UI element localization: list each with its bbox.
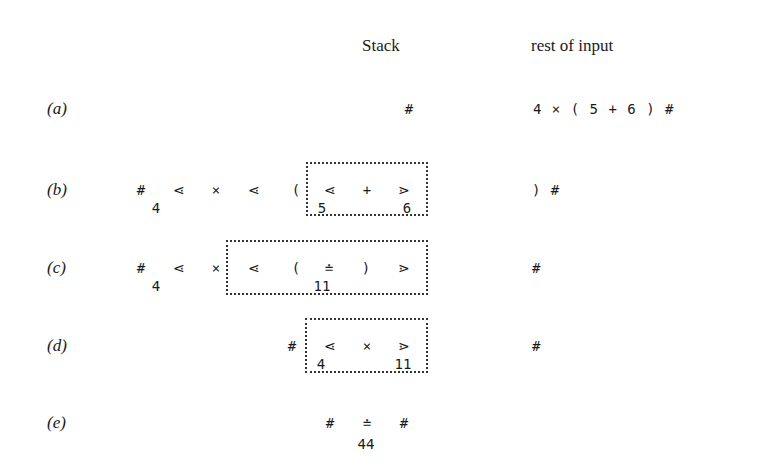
input-remaining: # — [532, 339, 540, 353]
stack-symbol: × — [212, 183, 220, 197]
stack-value: 6 — [403, 201, 411, 215]
stack-value: 11 — [314, 279, 331, 293]
stack-value: 4 — [152, 201, 160, 215]
row-label: (e) — [47, 414, 66, 431]
stack-symbol: # — [326, 416, 334, 430]
stack-symbol: ⋖ — [173, 261, 185, 275]
row-label: (c) — [47, 259, 66, 276]
stack-symbol: ( — [292, 261, 300, 275]
stack-symbol: ⋗ — [398, 339, 410, 353]
stack-symbol: ⋖ — [324, 183, 336, 197]
stack-symbol: ≐ — [363, 416, 371, 430]
stack-symbol: ≐ — [325, 261, 333, 275]
stack-symbol: # — [137, 261, 145, 275]
input-remaining: # — [532, 261, 540, 275]
stack-symbol: ⋖ — [324, 339, 336, 353]
stack-symbol: # — [137, 183, 145, 197]
row-label: (a) — [47, 100, 67, 117]
stack-value: 4 — [317, 357, 325, 371]
stack-symbol: × — [212, 261, 220, 275]
input-remaining: 4 × ( 5 + 6 ) # — [533, 102, 673, 116]
input-remaining: ) # — [532, 183, 559, 197]
row-label: (b) — [47, 181, 67, 198]
stack-header: Stack — [362, 37, 400, 54]
stack-symbol: ⋖ — [248, 183, 260, 197]
stack-symbol: ⋗ — [398, 183, 410, 197]
stack-symbol: ⋗ — [398, 261, 410, 275]
stack-symbol: + — [363, 183, 371, 197]
stack-symbol: # — [405, 102, 413, 116]
row-label: (d) — [47, 337, 67, 354]
stack-value: 5 — [318, 201, 326, 215]
stack-symbol: ) — [362, 261, 370, 275]
stack-symbol: × — [363, 339, 371, 353]
stack-symbol: # — [400, 416, 408, 430]
stack-value: 4 — [152, 279, 160, 293]
stack-symbol: # — [288, 339, 296, 353]
stack-symbol: ⋖ — [173, 183, 185, 197]
stack-value: 44 — [358, 437, 375, 451]
rest-of-input-header: rest of input — [531, 37, 613, 54]
stack-symbol: ⋖ — [248, 261, 260, 275]
stack-symbol: ( — [292, 183, 300, 197]
stack-value: 11 — [395, 357, 412, 371]
